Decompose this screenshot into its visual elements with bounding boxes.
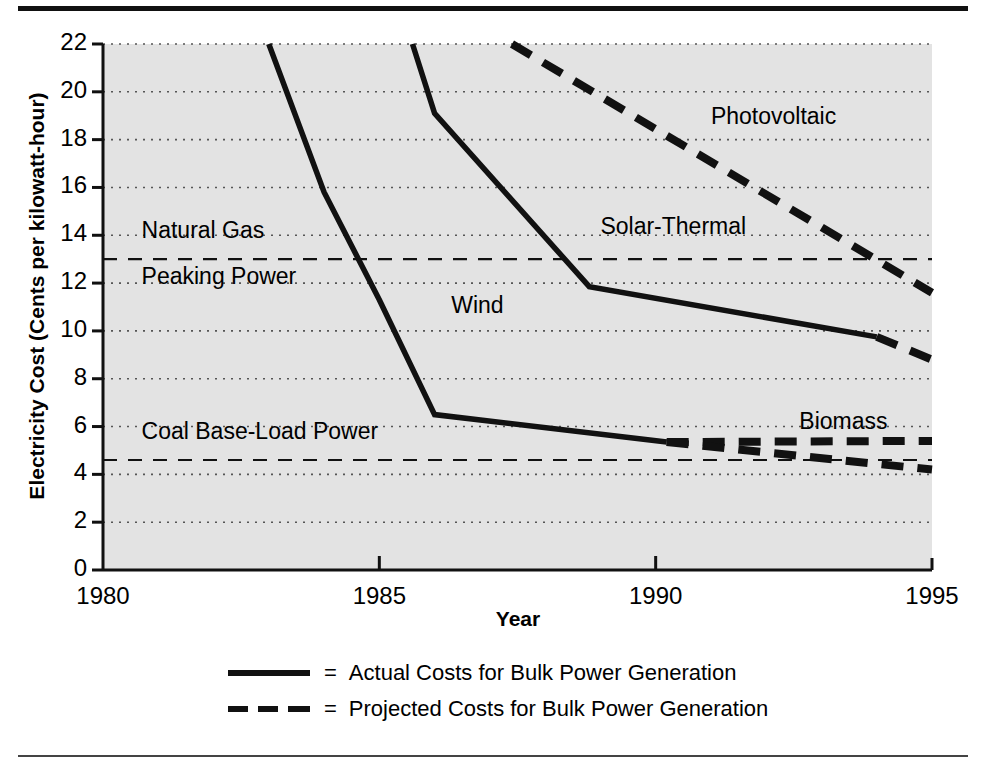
x-axis-title: Year xyxy=(103,607,933,631)
figure: Electricity Cost (Cents per kilowatt-hou… xyxy=(0,0,982,771)
series-label-solar-thermal: Solar-Thermal xyxy=(600,213,746,240)
reference-label-peaking-power: Peaking Power xyxy=(142,263,297,290)
x-tick-label-1995: 1995 xyxy=(872,582,982,610)
y-tick-label-20: 20 xyxy=(13,76,87,104)
legend: = Actual Costs for Bulk Power Generation… xyxy=(0,655,982,727)
bottom-rule xyxy=(18,755,968,757)
legend-label-actual: Actual Costs for Bulk Power Generation xyxy=(349,660,737,686)
y-tick-label-12: 12 xyxy=(13,267,87,295)
series-label-wind: Wind xyxy=(451,292,503,319)
y-tick-label-10: 10 xyxy=(13,315,87,343)
series-label-biomass-upper-projection: Biomass xyxy=(799,408,887,435)
legend-row-actual: = Actual Costs for Bulk Power Generation xyxy=(0,655,982,691)
y-tick-label-4: 4 xyxy=(13,458,87,486)
legend-solid-line-icon xyxy=(228,664,310,682)
x-tick-label-1985: 1985 xyxy=(319,582,439,610)
legend-label-projected: Projected Costs for Bulk Power Generatio… xyxy=(349,696,768,722)
y-tick-label-0: 0 xyxy=(13,554,87,582)
reference-label-natural-gas: Natural Gas xyxy=(142,217,265,244)
legend-row-projected: = Projected Costs for Bulk Power Generat… xyxy=(0,691,982,727)
y-tick-label-2: 2 xyxy=(13,506,87,534)
legend-equals-projected: = xyxy=(324,696,337,722)
y-tick-label-14: 14 xyxy=(13,219,87,247)
y-tick-label-8: 8 xyxy=(13,363,87,391)
plot-canvas xyxy=(0,0,982,640)
chart-area: Electricity Cost (Cents per kilowatt-hou… xyxy=(0,0,982,640)
x-tick-label-1980: 1980 xyxy=(43,582,163,610)
x-tick-label-1990: 1990 xyxy=(596,582,716,610)
legend-dashed-line-icon xyxy=(228,700,310,718)
series-label-photovoltaic: Photovoltaic xyxy=(711,103,836,130)
y-tick-label-16: 16 xyxy=(13,171,87,199)
y-tick-label-6: 6 xyxy=(13,411,87,439)
reference-label-coal-base-load-power: Coal Base-Load Power xyxy=(142,418,379,445)
y-tick-label-22: 22 xyxy=(13,28,87,56)
legend-equals-actual: = xyxy=(324,660,337,686)
y-tick-label-18: 18 xyxy=(13,124,87,152)
